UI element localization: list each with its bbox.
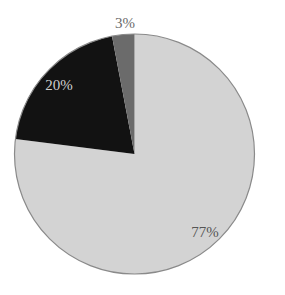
slice-label-77: 77% (191, 224, 219, 240)
slice-label-3: 3% (115, 15, 135, 31)
pie-chart: 77% 3% 20% (0, 0, 285, 295)
slice-label-20: 20% (45, 77, 73, 93)
